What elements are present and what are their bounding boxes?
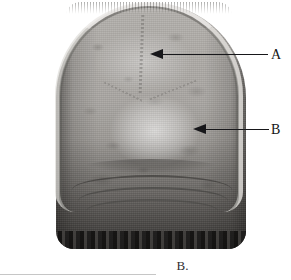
photo-frame bbox=[54, 2, 248, 251]
annotation-label-b: B bbox=[271, 123, 281, 137]
scan-artifact-rule bbox=[0, 274, 156, 275]
page-canvas: A B B. bbox=[0, 0, 291, 280]
skull-photograph bbox=[54, 2, 248, 251]
bone-mottling-texture bbox=[56, 3, 246, 249]
figure-caption: B. bbox=[0, 259, 291, 273]
annotation-label-a: A bbox=[271, 48, 281, 62]
cranium-body bbox=[56, 3, 246, 249]
